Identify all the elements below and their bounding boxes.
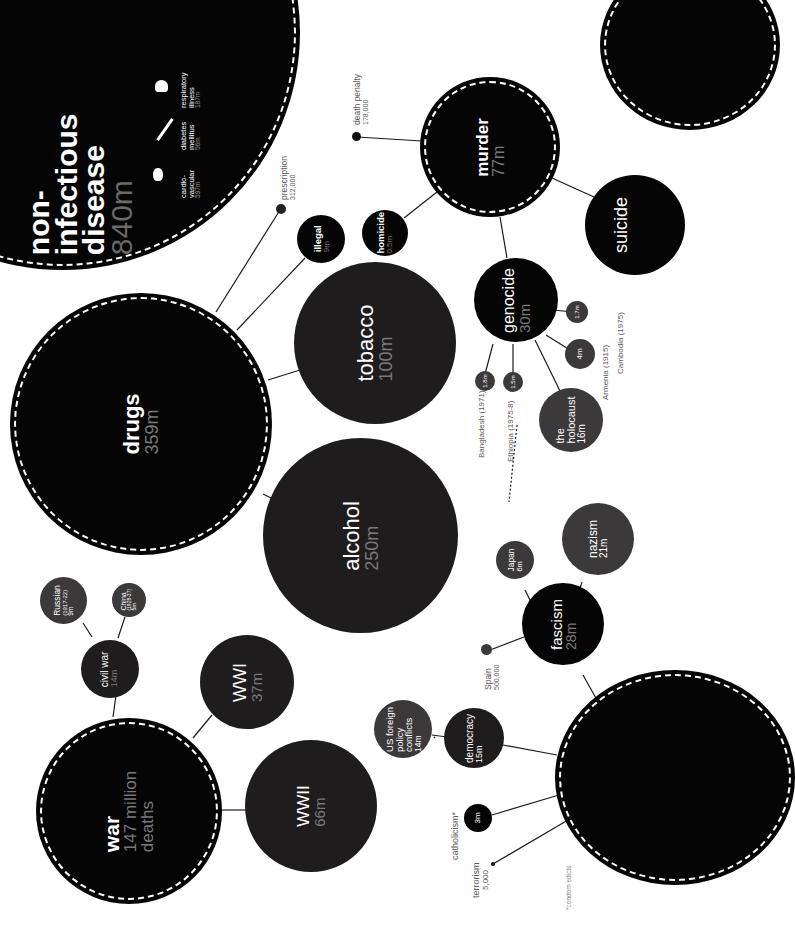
- dot-prescription: [276, 204, 286, 214]
- bubble-russian: Russian (1917-22) 9m: [40, 577, 87, 624]
- bubble-lower-right: [555, 670, 795, 885]
- dot-death-penalty: [352, 132, 361, 141]
- dot-terrorism: [491, 862, 495, 866]
- heart-icon: [153, 168, 163, 181]
- bubble-homicide: homicide 0.5m: [362, 210, 408, 256]
- label-bangladesh: Bangladesh (1971): [478, 390, 487, 458]
- bubble-cambodia: 1.7m: [566, 301, 588, 323]
- lungs-icon: [155, 80, 168, 92]
- bubble-us-foreign-policy: US foreign policy conflicts 14m: [374, 700, 432, 758]
- nid-value: 840m: [108, 35, 136, 255]
- bubble-wwi: WWI 37m: [200, 635, 294, 729]
- label-spain: Spain 500,000: [484, 665, 501, 690]
- bubble-genocide: genocide 30m: [474, 258, 558, 342]
- nid-line1: non-: [25, 35, 53, 255]
- bubble-suicide: suicide: [585, 175, 685, 275]
- label-ethiopia: Ethiopia (1975-8): [507, 401, 516, 462]
- bubble-holocaust: the holocaust 16m: [539, 388, 603, 452]
- bubble-china: China (1928-37) 5m: [112, 583, 146, 617]
- label-terrorism: terrorism 5,000: [472, 863, 491, 899]
- bubble-fascism: fascism 28m: [522, 583, 604, 665]
- bubble-murder: murder 77m: [420, 77, 560, 217]
- bubble-drugs: drugs 359m: [10, 293, 272, 555]
- dot-spain: [481, 644, 492, 655]
- bubble-democracy: democracy 15m: [444, 708, 504, 768]
- nid-line2: infectious: [52, 35, 80, 255]
- label-catholicism: catholicism*: [451, 812, 461, 860]
- bubble-ethiopia: 1.5m: [503, 372, 523, 392]
- bubble-nazism: nazism 21m: [562, 503, 634, 575]
- bubble-japan: Japan 6m: [496, 541, 534, 579]
- footnote: *condom edicts: [565, 866, 572, 910]
- label-armenia: Armenia (1915): [602, 345, 611, 400]
- bubble-war: war 147 million deaths: [36, 718, 222, 904]
- bubble-tobacco: tobacco 100m: [294, 262, 456, 424]
- label-death-penalty: death penalty 178,000: [353, 74, 370, 125]
- nid-line3: disease: [80, 35, 108, 255]
- bubble-bangladesh: 1.8m: [475, 371, 495, 391]
- bubble-civil-war: civil war 14m: [81, 640, 139, 698]
- bubble-armenia: 4m: [565, 339, 595, 369]
- label-prescription: prescription 312,000: [280, 156, 297, 200]
- bubble-wwii: WWII 66m: [245, 740, 377, 872]
- bubble-alcohol: alcohol 250m: [263, 438, 458, 633]
- bubble-illegal: illegal 9m: [297, 215, 345, 263]
- label-cambodia: Cambodia (1975): [617, 312, 626, 374]
- bubble-catholicism: 3m: [464, 804, 492, 832]
